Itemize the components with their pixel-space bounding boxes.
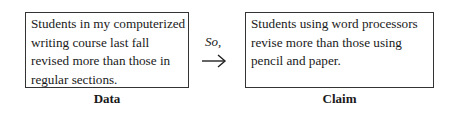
- connector-text: So,: [205, 34, 221, 50]
- data-box: Students in my computerized writing cour…: [25, 12, 189, 88]
- claim-label: Claim: [245, 91, 434, 107]
- right-arrow-icon: [200, 52, 228, 70]
- claim-box: Students using word processors revise mo…: [245, 12, 434, 88]
- claim-text: Students using word processors revise mo…: [251, 16, 418, 68]
- data-label: Data: [25, 91, 189, 107]
- data-text: Students in my computerized writing cour…: [31, 16, 185, 87]
